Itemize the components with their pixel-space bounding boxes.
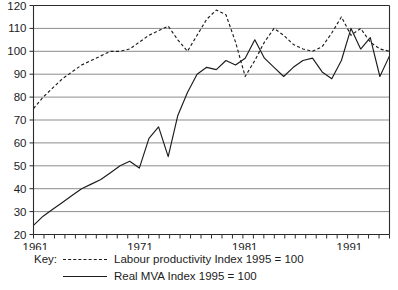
legend-item-real-mva: Key: Real MVA Index 1995 = 100	[34, 268, 257, 284]
y-axis-tick-labels: 1201101009080706050403020	[7, 0, 26, 241]
legend-swatch-dashed-icon	[63, 254, 107, 264]
x-tick-label: 1971	[127, 241, 153, 251]
gridlines-group	[30, 6, 390, 235]
x-tick-label: 1981	[232, 241, 258, 251]
y-tick-label: 50	[14, 160, 27, 172]
legend-label-real-mva: Real MVA Index 1995 = 100	[114, 270, 257, 282]
y-tick-label: 110	[8, 22, 26, 34]
legend-swatch-solid-icon	[63, 271, 107, 281]
y-tick-label: 30	[14, 206, 27, 218]
y-tick-label: 80	[14, 91, 27, 103]
series-line-real-mva	[34, 28, 390, 225]
y-tick-label: 20	[14, 229, 27, 241]
data-series-group	[34, 10, 390, 225]
legend-label-labour-productivity: Labour productivity Index 1995 = 100	[114, 253, 304, 265]
y-tick-label: 60	[14, 137, 27, 149]
y-tick-label: 40	[14, 183, 27, 195]
y-tick-label: 120	[7, 0, 26, 12]
line-chart-plot: 1201101009080706050403020 19611971198119…	[0, 0, 398, 250]
legend-key-word: Key:	[34, 253, 57, 265]
x-axis-tick-labels: 1961197119811991	[23, 241, 363, 251]
series-line-labour-productivity	[34, 10, 390, 108]
y-tick-label: 90	[14, 68, 27, 80]
chart-figure: 1201101009080706050403020 19611971198119…	[0, 0, 398, 290]
legend-item-labour-productivity: Key: Labour productivity Index 1995 = 10…	[34, 251, 304, 267]
x-axis-tick-marks	[34, 235, 390, 239]
chart-legend: Key: Labour productivity Index 1995 = 10…	[0, 251, 398, 290]
y-tick-label: 100	[7, 45, 26, 57]
x-tick-label: 1991	[337, 241, 363, 251]
y-tick-label: 70	[14, 114, 27, 126]
x-tick-label: 1961	[23, 241, 49, 251]
